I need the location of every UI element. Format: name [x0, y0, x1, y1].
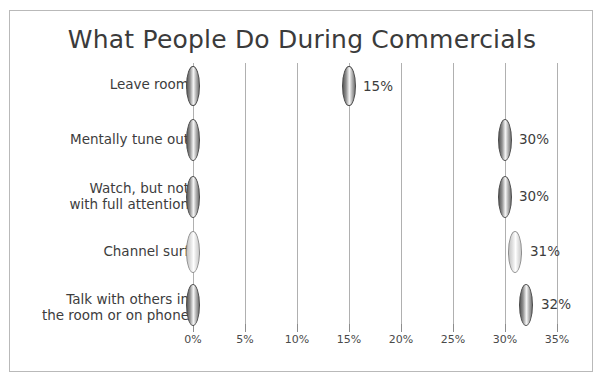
bar-cap-left	[186, 284, 200, 326]
chart-frame: What People Do During Commercials Leave …	[9, 10, 593, 372]
plot-area: 0% 5% 10% 15% 20% 25% 30% 35% 15% 30% 30…	[193, 63, 557, 324]
axis-tick	[297, 324, 298, 332]
x-tick-label: 30%	[483, 333, 527, 346]
x-tick-label: 35%	[535, 333, 579, 346]
axis-tick	[401, 324, 402, 332]
axis-tick	[453, 324, 454, 332]
bar-cap-right	[342, 66, 356, 106]
chart-title: What People Do During Commercials	[10, 25, 594, 54]
x-tick-label: 15%	[327, 333, 371, 346]
category-label: Mentally tune out	[70, 131, 189, 147]
gridline-35	[557, 63, 558, 324]
x-tick-label: 25%	[431, 333, 475, 346]
x-tick-label: 5%	[223, 333, 267, 346]
bar-cap-left	[186, 231, 200, 273]
category-label: Channel surf	[103, 243, 189, 259]
x-tick-label: 0%	[171, 333, 215, 346]
bar-cap-right	[519, 284, 533, 326]
bar-cap-right	[498, 119, 512, 161]
category-label: Leave room	[110, 76, 189, 92]
bar-watch-but-not-full-attention[interactable]	[193, 177, 505, 217]
bar-value-label: 15%	[363, 78, 393, 94]
bar-value-label: 32%	[541, 296, 571, 312]
x-tick-label: 20%	[379, 333, 423, 346]
bar-channel-surf[interactable]	[193, 232, 515, 272]
bar-leave-room[interactable]	[193, 67, 349, 105]
axis-tick	[505, 324, 506, 332]
bar-cap-right	[498, 176, 512, 218]
category-labels-column: Leave room Mentally tune out Watch, but …	[24, 63, 189, 324]
bar-value-label: 30%	[519, 188, 549, 204]
bar-value-label: 30%	[519, 131, 549, 147]
axis-tick	[245, 324, 246, 332]
bar-mentally-tune-out[interactable]	[193, 120, 505, 160]
bar-cap-left	[186, 119, 200, 161]
bar-value-label: 31%	[530, 243, 560, 259]
axis-tick	[349, 324, 350, 332]
category-label: Watch, but not with full attention	[69, 180, 189, 212]
x-tick-label: 10%	[275, 333, 319, 346]
bar-cap-left	[186, 66, 200, 106]
category-label: Talk with others in the room or on phone	[42, 291, 189, 323]
bar-cap-right	[508, 231, 522, 273]
bar-talk-with-others[interactable]	[193, 285, 526, 325]
bar-cap-left	[186, 176, 200, 218]
axis-tick	[557, 324, 558, 332]
